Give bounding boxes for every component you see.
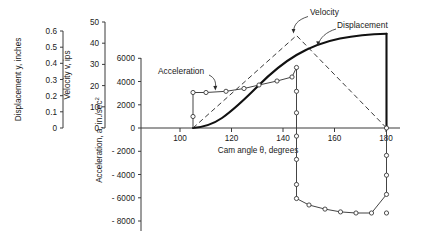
acceleration-marker [354, 211, 358, 215]
acceleration-tick-label: - 8000 [112, 217, 136, 226]
displacement-tick-label: 0.4 [46, 59, 58, 68]
velocity-curve-path [193, 36, 387, 129]
displacement-axis-title: Displacement y, inches [14, 38, 23, 122]
camangle-axis-title: Cam angle θ, degrees [218, 146, 299, 155]
acceleration-marker [191, 90, 195, 94]
velocity-axis-title: Velocity v, ips [63, 51, 72, 100]
acceleration-marker [294, 157, 298, 161]
acceleration-marker [384, 192, 388, 196]
acceleration-marker [294, 111, 298, 115]
displacement-tick-label: 0.2 [46, 92, 58, 101]
displacement-tick-label: 0.6 [46, 27, 58, 36]
displacement-tick-label: 0 [52, 124, 57, 133]
acceleration-tick-label: 0 [130, 124, 135, 133]
acceleration-marker [384, 126, 388, 130]
acceleration-marker [384, 173, 388, 177]
acceleration-marker [294, 182, 298, 186]
cam-motion-chart: 0.6 0.5 0.4 0.3 0.2 0.1 0 Displacement y… [0, 0, 422, 243]
acceleration-axis-title-exponent: 2 [94, 96, 100, 100]
velocity-tick-label: 50 [90, 18, 100, 27]
displacement-curve [193, 34, 387, 128]
acceleration-tick-label: 6000 [117, 54, 136, 63]
velocity-leader-line [294, 17, 309, 32]
acceleration-marker [384, 153, 388, 157]
acceleration-marker [290, 75, 294, 79]
displacement-curve-path [193, 34, 387, 128]
acceleration-annotation: Acceleration [158, 66, 217, 91]
velocity-curve [193, 36, 387, 129]
acceleration-marker [224, 89, 228, 93]
acceleration-tick-label: 4000 [117, 78, 136, 87]
displacement-tick-label: 0.1 [46, 108, 58, 117]
acceleration-axis-title-text: Acceleration, a, in./sec [95, 100, 104, 182]
camangle-axis: 100 120 140 160 180 Cam angle θ, degrees [141, 128, 400, 155]
acceleration-axis: 6000 4000 2000 0 - 2000 - 4000 - 6000 - … [94, 54, 141, 231]
velocity-label: Velocity [310, 7, 340, 17]
camangle-tick-label: 160 [328, 134, 342, 143]
acceleration-tick-label: - 6000 [112, 194, 136, 203]
velocity-tick-label: 20 [90, 82, 100, 91]
displacement-label: Displacement [337, 20, 388, 30]
acceleration-tick-label: - 2000 [112, 147, 136, 156]
acceleration-marker [294, 134, 298, 138]
acceleration-tick-label: 2000 [117, 101, 136, 110]
acceleration-marker [257, 83, 261, 87]
acceleration-marker [307, 203, 311, 207]
camangle-tick-label: 140 [276, 134, 290, 143]
acceleration-tick-label: - 4000 [112, 171, 136, 180]
acceleration-marker [384, 211, 388, 215]
acceleration-marker [191, 114, 195, 118]
displacement-axis: 0.6 0.5 0.4 0.3 0.2 0.1 0 Displacement y… [14, 27, 63, 133]
acceleration-marker [294, 89, 298, 93]
acceleration-marker [294, 196, 298, 200]
displacement-tick-label: 0.5 [46, 43, 58, 52]
acceleration-label: Acceleration [158, 66, 204, 76]
velocity-tick-label: 30 [90, 60, 100, 69]
acceleration-marker [369, 211, 373, 215]
acceleration-marker [242, 86, 246, 90]
acceleration-leader-arrow [213, 86, 217, 91]
acceleration-marker [338, 210, 342, 214]
velocity-tick-label: 40 [90, 39, 100, 48]
acceleration-marker [294, 65, 298, 69]
velocity-leader-arrow [292, 29, 296, 34]
acceleration-axis-title: Acceleration, a, in./sec2 [94, 96, 104, 182]
camangle-tick-label: 100 [173, 134, 187, 143]
camangle-tick-label: 120 [225, 134, 239, 143]
acceleration-marker [275, 79, 279, 83]
acceleration-marker [323, 207, 327, 211]
displacement-tick-label: 0.3 [46, 76, 58, 85]
velocity-annotation: Velocity [292, 7, 340, 34]
acceleration-marker [204, 90, 208, 94]
